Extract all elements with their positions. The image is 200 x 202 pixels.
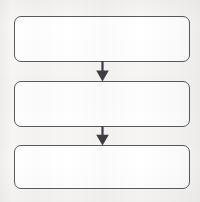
flowchart-node-2[interactable] (14, 81, 190, 127)
flowchart-node-1[interactable] (14, 16, 190, 62)
flowchart-connector-2 (94, 126, 111, 146)
flowchart-canvas (0, 0, 200, 202)
connector-1-arrowhead-icon (96, 71, 109, 82)
flowchart-node-3[interactable] (14, 145, 190, 189)
connector-2-arrowhead-icon (96, 135, 109, 146)
flowchart-connector-1 (94, 61, 111, 82)
